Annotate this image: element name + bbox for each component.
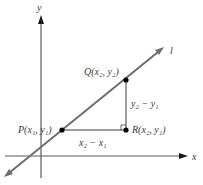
x-axis-arrow-icon <box>179 153 188 159</box>
point-r-label: R(x₂, y₁) <box>131 124 166 136</box>
rise-label: y₂ − y₁ <box>130 98 159 109</box>
y-axis: y <box>36 2 44 178</box>
run-label: x₂ − x₁ <box>78 137 107 148</box>
line-l: l <box>4 45 173 177</box>
x-axis-label: x <box>191 151 197 162</box>
coordinate-diagram: y x l P(x₁, y₁) Q(x₂, y₂) <box>0 0 203 185</box>
line-label: l <box>170 45 173 56</box>
point-q-label: Q(x₂, y₂) <box>84 66 119 78</box>
y-axis-arrow-icon <box>38 15 44 24</box>
y-axis-label: y <box>36 2 42 13</box>
point-r: R(x₂, y₁) <box>123 124 166 136</box>
point-q-dot-icon <box>123 77 128 82</box>
point-p-label: P(x₁, y₁) <box>17 124 52 136</box>
point-r-dot-icon <box>123 127 128 132</box>
point-p-dot-icon <box>59 127 64 132</box>
